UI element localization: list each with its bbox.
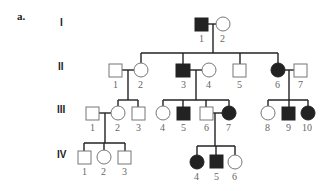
id-label: 6 — [204, 122, 209, 133]
id-label: 1 — [82, 166, 87, 177]
id-label: 3 — [181, 79, 186, 90]
individual-IV-5-affected-male[interactable] — [210, 155, 223, 168]
individual-III-5-affected-male[interactable] — [177, 107, 190, 120]
pedigree-chart: a. I II III IV — [0, 0, 329, 191]
individual-II-6-affected-female[interactable] — [271, 63, 285, 77]
id-label: 1 — [113, 79, 118, 90]
id-label: 8 — [265, 122, 270, 133]
generation-label-IV: IV — [57, 149, 67, 160]
individual-IV-1-male[interactable] — [78, 151, 91, 164]
panel-label: a. — [17, 10, 26, 22]
individual-III-6-male[interactable] — [200, 107, 213, 120]
id-label: 5 — [237, 79, 242, 90]
generation-label-III: III — [57, 104, 66, 115]
generation-label-II: II — [58, 61, 64, 72]
individual-I-2-female[interactable] — [216, 17, 230, 31]
generation-label-I: I — [60, 17, 63, 28]
id-label: 1 — [199, 33, 204, 44]
individual-II-7-male[interactable] — [294, 64, 307, 77]
id-label: 4 — [206, 79, 211, 90]
id-label: 9 — [286, 122, 291, 133]
individual-III-2-female[interactable] — [111, 106, 125, 120]
individual-II-2-female[interactable] — [134, 63, 148, 77]
individual-IV-4-affected-female[interactable] — [190, 155, 204, 169]
id-label: 2 — [115, 122, 120, 133]
individual-III-9-affected-male[interactable] — [282, 107, 295, 120]
individual-III-1-male[interactable] — [86, 107, 99, 120]
generation-IV: 1 2 3 4 5 6 — [78, 150, 242, 182]
id-label: 2 — [101, 166, 106, 177]
id-label: 7 — [226, 122, 231, 133]
id-label: 7 — [298, 79, 303, 90]
individual-III-3-male[interactable] — [132, 107, 145, 120]
individual-II-5-male[interactable] — [233, 64, 246, 77]
id-label: 10 — [302, 122, 312, 133]
id-label: 6 — [232, 171, 237, 182]
id-label: 3 — [122, 166, 127, 177]
id-label: 6 — [275, 79, 280, 90]
individual-IV-6-female[interactable] — [228, 155, 242, 169]
individual-III-4-female[interactable] — [156, 106, 170, 120]
individual-II-1-male[interactable] — [109, 64, 122, 77]
id-label: 5 — [181, 122, 186, 133]
individual-III-8-female[interactable] — [261, 106, 275, 120]
generation-III: 1 2 3 4 5 6 7 8 9 10 — [86, 106, 315, 133]
generation-II: 1 2 3 4 5 6 7 — [109, 63, 307, 90]
individual-III-7-affected-female[interactable] — [222, 106, 236, 120]
id-label: 4 — [194, 171, 199, 182]
individual-IV-2-female[interactable] — [97, 150, 111, 164]
id-label: 1 — [90, 122, 95, 133]
id-label: 2 — [220, 33, 225, 44]
id-label: 5 — [214, 171, 219, 182]
id-label: 4 — [160, 122, 165, 133]
individual-IV-3-male[interactable] — [118, 151, 131, 164]
individual-III-10-affected-female[interactable] — [301, 106, 315, 120]
id-label: 2 — [138, 79, 143, 90]
individual-II-3-affected-male[interactable] — [176, 64, 190, 77]
id-label: 3 — [136, 122, 141, 133]
individual-I-1-affected-male[interactable] — [195, 18, 208, 31]
individual-II-4-female[interactable] — [202, 63, 216, 77]
